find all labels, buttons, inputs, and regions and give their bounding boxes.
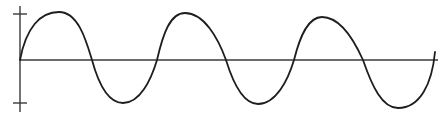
- waveform-svg: [0, 0, 447, 116]
- waveform-chart: [0, 0, 447, 116]
